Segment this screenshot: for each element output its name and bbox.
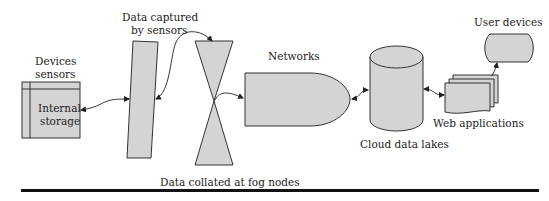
networks-node: [245, 73, 350, 126]
internal-label: Internal: [38, 102, 81, 114]
web-apps-label: Web applications: [433, 117, 524, 129]
data-captured-parallelogram: [127, 41, 158, 158]
cloud-data-lakes-node: [370, 46, 423, 131]
connector-webapps-userdevices: [492, 63, 497, 76]
connector-fog-networks: [215, 93, 243, 100]
fog-label: Data collated at fog nodes: [160, 176, 300, 188]
data-captured-label: Data captured: [122, 11, 199, 23]
web-applications-node: [445, 75, 498, 113]
connector-networks-cloud: [352, 90, 368, 99]
user-devices-node: [485, 34, 534, 62]
by-sensors-label: by sensors: [131, 24, 187, 36]
fog-node-bottom-triangle: [195, 101, 233, 165]
networks-label: Networks: [268, 50, 320, 62]
bottom-rule: [21, 189, 539, 192]
connector-storage-parallelogram: [81, 99, 129, 110]
sensors-label: sensors: [35, 68, 75, 80]
storage-label: storage: [40, 115, 80, 127]
fog-node-top-triangle: [195, 41, 233, 101]
user-devices-label: User devices: [474, 16, 543, 28]
devices-label: Devices: [35, 55, 76, 67]
cloud-label: Cloud data lakes: [360, 138, 449, 150]
data-flow-diagram: Devices sensors Internal storage Data ca…: [0, 0, 549, 201]
connector-cloud-webapps: [424, 89, 444, 95]
